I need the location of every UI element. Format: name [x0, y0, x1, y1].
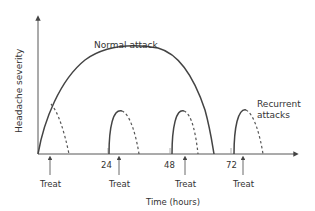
recurrent-attack-2-dashed: [122, 111, 139, 154]
tick-label-24: 24: [101, 160, 112, 170]
recurrent-label-line1: Recurrent: [257, 99, 301, 109]
y-axis-label: Headache severity: [14, 48, 24, 133]
headache-recurrence-diagram: Headache severity Normal attack Recurren…: [0, 0, 315, 211]
treat-label-1: Treat: [39, 179, 62, 189]
recurrent-label-line2: attacks: [257, 110, 290, 120]
recurrent-attack-4-solid: [234, 110, 246, 154]
tick-label-48: 48: [164, 160, 175, 170]
normal-attack-curve: [38, 46, 214, 154]
treat-label-4: Treat: [232, 179, 255, 189]
tick-label-72: 72: [226, 160, 237, 170]
recurrent-attack-1-dashed: [51, 104, 69, 154]
treat-label-2: Treat: [108, 179, 131, 189]
treat-label-3: Treat: [174, 179, 197, 189]
normal-attack-label: Normal attack: [94, 40, 158, 50]
recurrent-attack-3-solid: [172, 111, 184, 154]
recurrent-attack-3-dashed: [184, 111, 198, 154]
x-axis-label: Time (hours): [145, 197, 200, 207]
recurrent-attack-2-solid: [109, 111, 122, 154]
